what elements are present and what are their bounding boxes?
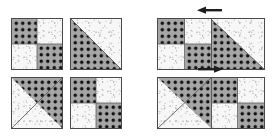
pair-right-block-four-patch xyxy=(211,78,264,128)
patch-dotted-top-left xyxy=(158,19,185,44)
pair-joining-seam xyxy=(211,19,212,69)
patch-light-top-right xyxy=(238,78,265,103)
block-hst-top-right xyxy=(70,18,122,70)
patch-dotted-top-left xyxy=(71,78,96,103)
pair-joining-seam xyxy=(211,78,212,128)
pair-left-block-four-patch xyxy=(158,19,211,69)
patch-light-bottom-left xyxy=(12,44,37,69)
press-seam-left-arrow xyxy=(197,5,223,14)
patch-light-bottom-left xyxy=(211,103,238,128)
joined-pair-top xyxy=(157,18,265,70)
press-seam-right-arrow xyxy=(197,64,223,73)
patch-dotted-bottom-right xyxy=(96,103,121,128)
patch-dotted-top-left xyxy=(12,19,37,44)
pair-right-block-hst xyxy=(211,19,264,69)
block-hst-bottom-left xyxy=(11,77,63,129)
patch-light-top-right xyxy=(37,19,62,44)
block-four-patch-bottom-right xyxy=(70,77,122,129)
patch-light-bottom-left xyxy=(71,103,96,128)
pair-left-block-hst xyxy=(158,78,211,128)
patch-light-bottom-left xyxy=(158,44,185,69)
patch-light-top-right xyxy=(96,78,121,103)
patch-dotted-top-left xyxy=(211,78,238,103)
block-four-patch-top-left xyxy=(11,18,63,70)
patch-light-top-right xyxy=(185,19,212,44)
quilt-diagram-canvas xyxy=(0,0,277,139)
joined-pair-bottom xyxy=(157,77,265,129)
patch-dotted-bottom-right xyxy=(238,103,265,128)
patch-dotted-bottom-right xyxy=(37,44,62,69)
